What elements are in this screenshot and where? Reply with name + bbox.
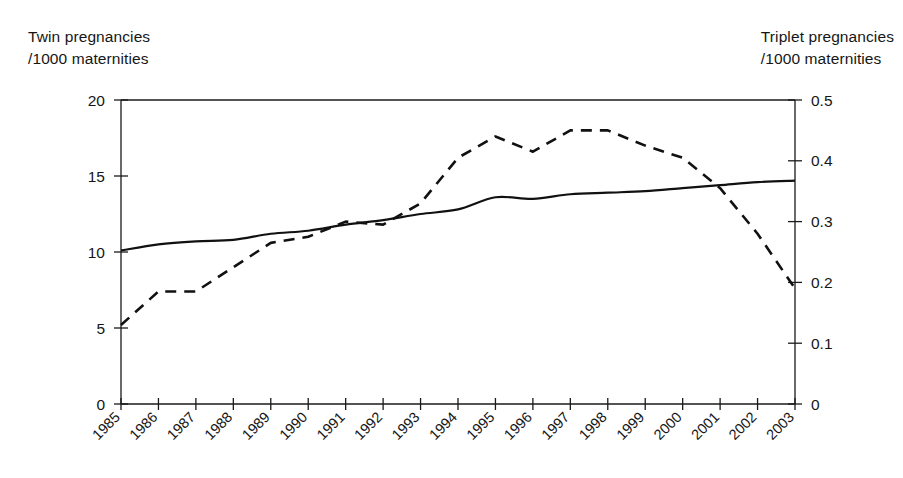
x-tick-label: 1996 [501, 409, 535, 443]
left-tick-label: 10 [88, 244, 106, 261]
x-tick-label: 1985 [89, 409, 123, 443]
x-tick-label: 2000 [651, 409, 685, 443]
right-tick-label: 0 [811, 396, 820, 413]
x-tick-label: 2003 [763, 409, 797, 443]
x-tick-label: 1988 [201, 409, 235, 443]
x-tick-label: 1991 [314, 409, 348, 443]
axis-frame [121, 100, 795, 404]
chart-figure: Twin pregnancies /1000 maternities Tripl… [0, 0, 903, 478]
x-tick-label: 1993 [389, 409, 423, 443]
x-tick-label: 1999 [613, 409, 647, 443]
x-tick-label: 1995 [463, 409, 497, 443]
x-axis-ticks: 1985198619871988198919901991199219931994… [89, 398, 797, 443]
left-tick-label: 20 [88, 92, 106, 109]
left-tick-label: 15 [88, 168, 105, 185]
x-tick-label: 1998 [576, 409, 610, 443]
x-tick-label: 2002 [726, 409, 760, 443]
x-tick-label: 1987 [164, 409, 198, 443]
right-tick-label: 0.1 [811, 335, 833, 352]
series-twin-line [121, 181, 795, 251]
left-tick-label: 0 [96, 396, 105, 413]
data-series-layer [121, 130, 795, 325]
right-tick-label: 0.5 [811, 92, 833, 109]
x-tick-label: 1994 [426, 409, 460, 443]
series-triplet-line [121, 130, 795, 325]
x-tick-label: 1986 [126, 409, 160, 443]
right-tick-label: 0.2 [811, 274, 833, 291]
right-tick-label: 0.4 [811, 152, 833, 169]
x-tick-label: 2001 [688, 409, 722, 443]
left-axis-ticks: 05101520 [88, 92, 128, 413]
plot-area: 05101520 00.10.20.30.40.5 19851986198719… [0, 0, 903, 478]
x-tick-label: 1997 [538, 409, 572, 443]
x-tick-label: 1989 [239, 409, 273, 443]
right-tick-label: 0.3 [811, 213, 833, 230]
left-tick-label: 5 [96, 320, 105, 337]
x-tick-label: 1992 [351, 409, 385, 443]
x-tick-label: 1990 [276, 409, 310, 443]
